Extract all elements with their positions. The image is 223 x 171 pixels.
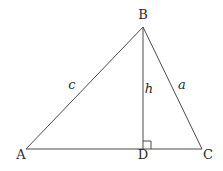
vertex-label-a: A xyxy=(15,147,26,162)
side-c xyxy=(26,27,143,149)
vertex-label-c: C xyxy=(203,147,213,162)
vertex-label-d: D xyxy=(138,147,148,162)
side-label-h: h xyxy=(145,81,153,96)
vertex-label-b: B xyxy=(138,7,148,22)
triangle-diagram: B A D C c h a xyxy=(0,0,223,171)
side-label-c: c xyxy=(68,77,76,92)
side-label-a: a xyxy=(178,77,186,92)
